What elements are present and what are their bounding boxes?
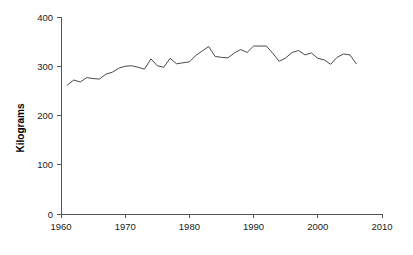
x-tick-labels: 196019701980199020002010: [50, 221, 392, 232]
line-chart: 0100200300400 196019701980199020002010 K…: [0, 0, 413, 255]
y-tick-label-300: 300: [37, 61, 53, 72]
y-tick-label-100: 100: [37, 159, 53, 170]
y-axis-group: 0100200300400: [37, 12, 61, 220]
x-tick-label-1980: 1980: [179, 221, 200, 232]
y-tick-labels: 0100200300400: [37, 12, 53, 220]
x-tick-label-1990: 1990: [243, 221, 264, 232]
chart-container: 0100200300400 196019701980199020002010 K…: [0, 0, 413, 255]
data-series-line: [67, 46, 356, 85]
y-tick-marks: [57, 17, 61, 214]
x-tick-label-1970: 1970: [115, 221, 136, 232]
x-tick-label-2010: 2010: [371, 221, 392, 232]
y-tick-label-0: 0: [48, 209, 53, 220]
y-axis-title: Kilograms: [15, 103, 26, 152]
x-axis-group: 196019701980199020002010: [50, 214, 392, 232]
y-tick-label-200: 200: [37, 110, 53, 121]
y-tick-label-400: 400: [37, 12, 53, 23]
x-tick-label-2000: 2000: [307, 221, 328, 232]
x-tick-label-1960: 1960: [50, 221, 71, 232]
x-tick-marks: [61, 214, 382, 218]
